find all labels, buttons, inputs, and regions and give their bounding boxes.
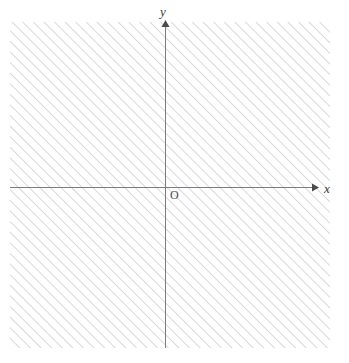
y-axis-label: y (160, 5, 166, 18)
origin-label: O (170, 189, 179, 201)
x-axis-label: x (324, 182, 330, 195)
hatched-solution-region (10, 22, 330, 348)
coordinate-plane-canvas (0, 0, 349, 363)
coordinate-plane-figure: y x O (0, 0, 349, 363)
